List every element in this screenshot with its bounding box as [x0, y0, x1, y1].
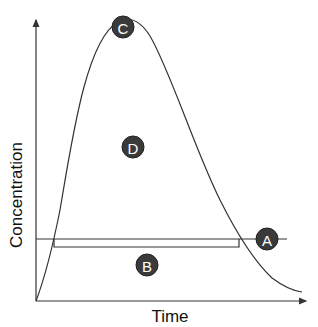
- marker-c-label: C: [118, 20, 129, 37]
- concentration-time-diagram: C D A B Time Concentration: [0, 0, 318, 327]
- marker-d: D: [122, 136, 144, 158]
- duration-bar-b: [54, 239, 239, 247]
- marker-c: C: [112, 16, 134, 38]
- y-axis-label: Concentration: [7, 142, 26, 248]
- concentration-curve: [36, 19, 302, 301]
- marker-a: A: [256, 228, 278, 250]
- marker-b: B: [136, 254, 158, 276]
- marker-b-label: B: [142, 258, 152, 275]
- marker-d-label: D: [128, 140, 139, 157]
- marker-a-label: A: [262, 232, 272, 249]
- x-axis-label: Time: [151, 307, 188, 326]
